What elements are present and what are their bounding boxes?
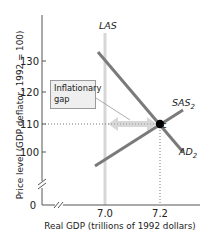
- ad2-label: AD2: [178, 146, 198, 160]
- gap-leader-line: [96, 98, 130, 120]
- sas2-label: SAS2: [172, 97, 196, 111]
- x-tick-7-0: 7.0: [97, 208, 113, 219]
- x-axis-break: [54, 201, 63, 209]
- x-axis-title: Real GDP (trillions of 1992 dollars): [44, 221, 195, 231]
- y-tick-0: 0: [30, 200, 36, 211]
- inflationary-gap-arrow: [108, 117, 157, 131]
- gap-label-line1: Inflationary: [54, 83, 95, 94]
- inflationary-gap-label: Inflationary gap: [50, 80, 96, 109]
- point-c-label: c: [162, 120, 167, 130]
- x-tick-7-2: 7.2: [152, 208, 168, 219]
- chart: c LAS SAS2 AD2 130 120 110 100 0 7.0 7.2…: [0, 0, 207, 241]
- y-axis-title: Price level (GDP deflator, 1992 = 100): [15, 31, 25, 200]
- gap-label-line2: gap: [54, 94, 95, 105]
- las-label: LAS: [99, 20, 117, 31]
